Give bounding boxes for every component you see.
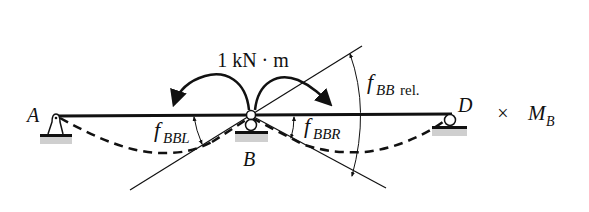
svg-text:f: f (367, 69, 376, 94)
label-f-bbl: f BBL (154, 117, 190, 146)
label-m-b: M B (527, 101, 555, 129)
beam-diagram: 1 kN · m A B D f BBL f BBR f BB rel. × M… (0, 0, 589, 212)
angle-arc-f-bbr (291, 117, 294, 138)
deflected-shape-right (252, 118, 447, 152)
svg-text:f: f (304, 113, 313, 138)
svg-text:M: M (527, 101, 547, 125)
moment-arrow-left (174, 74, 249, 110)
label-f-bbrel: f BB rel. (367, 69, 420, 98)
multiply-sign: × (497, 102, 508, 124)
svg-text:f: f (154, 117, 163, 142)
pin-support-a (40, 114, 72, 144)
svg-text:rel.: rel. (400, 82, 420, 98)
point-label-b: B (243, 148, 255, 170)
moment-label: 1 kN · m (217, 49, 289, 71)
svg-text:BBR: BBR (313, 126, 341, 142)
label-f-bbr: f BBR (304, 113, 341, 142)
svg-text:BBL: BBL (163, 130, 190, 146)
svg-text:B: B (546, 114, 555, 129)
angle-arc-f-bbl (194, 117, 202, 144)
svg-text:BB: BB (376, 82, 394, 98)
point-label-d: D (457, 94, 473, 116)
point-label-a: A (25, 104, 40, 126)
hinge-b (247, 111, 256, 120)
